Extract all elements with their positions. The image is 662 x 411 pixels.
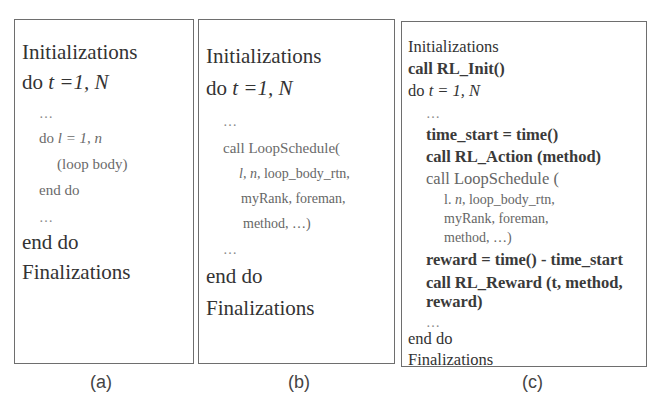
- loopschedule-args-1: l. n, loop_body_rtn,: [444, 192, 555, 208]
- outer-do-loop: do t =1, N: [22, 70, 109, 95]
- outer-do-loop: do t = 1, N: [408, 81, 480, 101]
- ellipsis: …: [39, 210, 54, 226]
- call-rl-action: call RL_Action (method): [426, 147, 601, 167]
- finalizations-label: Finalizations: [22, 260, 131, 285]
- loop-body: (loop body): [57, 156, 127, 173]
- inner-do-loop: do l = 1, n: [39, 130, 102, 147]
- call-rl-reward-cont: reward): [426, 292, 483, 312]
- time-start-assignment: time_start = time(): [426, 125, 558, 145]
- loopschedule-args-3: method, …): [243, 216, 311, 232]
- outer-end-do: end do: [22, 230, 79, 255]
- initializations-label: Initializations: [408, 37, 499, 57]
- loopschedule-args-2: myRank, foreman,: [241, 191, 346, 207]
- call-rl-reward: call RL_Reward (t, method,: [426, 273, 623, 293]
- ellipsis: …: [39, 106, 54, 122]
- caption-a: (a): [90, 372, 112, 393]
- loopschedule-args-1: l, n, loop_body_rtn,: [239, 166, 350, 182]
- call-rl-init: call RL_Init(): [408, 59, 505, 79]
- outer-end-do: end do: [206, 264, 263, 289]
- loopschedule-args-3: method, …): [444, 230, 512, 246]
- loopschedule-args-2: myRank, foreman,: [444, 211, 549, 227]
- call-loopschedule: call LoopSchedule(: [223, 140, 340, 157]
- caption-c: (c): [522, 372, 543, 393]
- call-loopschedule: call LoopSchedule (: [426, 169, 559, 189]
- ellipsis: …: [223, 114, 238, 130]
- initializations-label: Initializations: [22, 40, 137, 65]
- finalizations-label: Finalizations: [206, 296, 315, 321]
- outer-do-loop: do t =1, N: [206, 76, 293, 101]
- initializations-label: Initializations: [206, 44, 321, 69]
- ellipsis: …: [223, 242, 238, 258]
- outer-end-do: end do: [408, 329, 452, 349]
- panel-c-rl-loopschedule: Initializations call RL_Init() do t = 1,…: [401, 21, 647, 367]
- reward-assignment: reward = time() - time_start: [426, 250, 623, 270]
- panel-a-original-loop: Initializations do t =1, N … do l = 1, n…: [14, 19, 194, 364]
- caption-b: (b): [288, 372, 310, 393]
- ellipsis: …: [426, 106, 441, 122]
- finalizations-label: Finalizations: [408, 350, 493, 370]
- panel-b-loopschedule: Initializations do t =1, N … call LoopSc…: [198, 19, 395, 364]
- inner-end-do: end do: [39, 182, 79, 199]
